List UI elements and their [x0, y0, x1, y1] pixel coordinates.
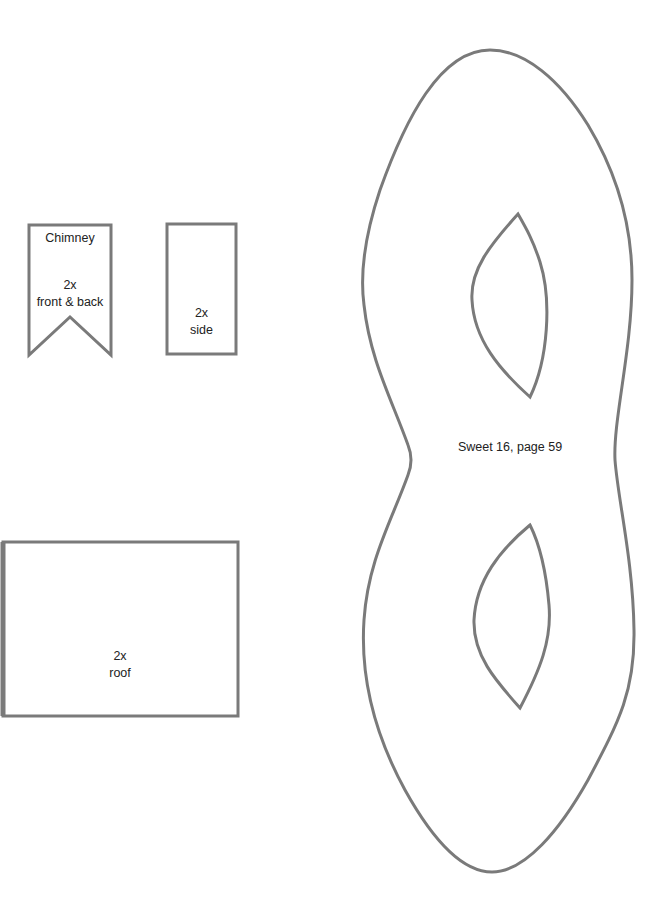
- chimney-side-count: 2x: [167, 305, 236, 321]
- mask-eye-hole-lower: [474, 525, 549, 708]
- template-sheet: [0, 0, 665, 911]
- mask-outline: [363, 50, 634, 872]
- mask-caption: Sweet 16, page 59: [445, 439, 575, 455]
- roof-count: 2x: [70, 648, 170, 664]
- chimney-front-back-name: front & back: [20, 294, 120, 310]
- mask-eye-hole-upper: [472, 214, 547, 397]
- chimney-title: Chimney: [29, 230, 111, 246]
- roof-outline: [3, 542, 238, 716]
- chimney-front-back-count: 2x: [29, 277, 111, 293]
- chimney-side-name: side: [167, 322, 236, 338]
- roof-name: roof: [70, 665, 170, 681]
